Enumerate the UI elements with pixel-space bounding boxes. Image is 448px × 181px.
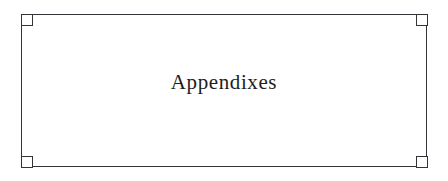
page-canvas: Appendixes <box>0 0 448 181</box>
part-title-container: Appendixes <box>22 15 426 168</box>
part-title: Appendixes <box>171 70 277 95</box>
part-divider-frame: Appendixes <box>21 14 427 167</box>
